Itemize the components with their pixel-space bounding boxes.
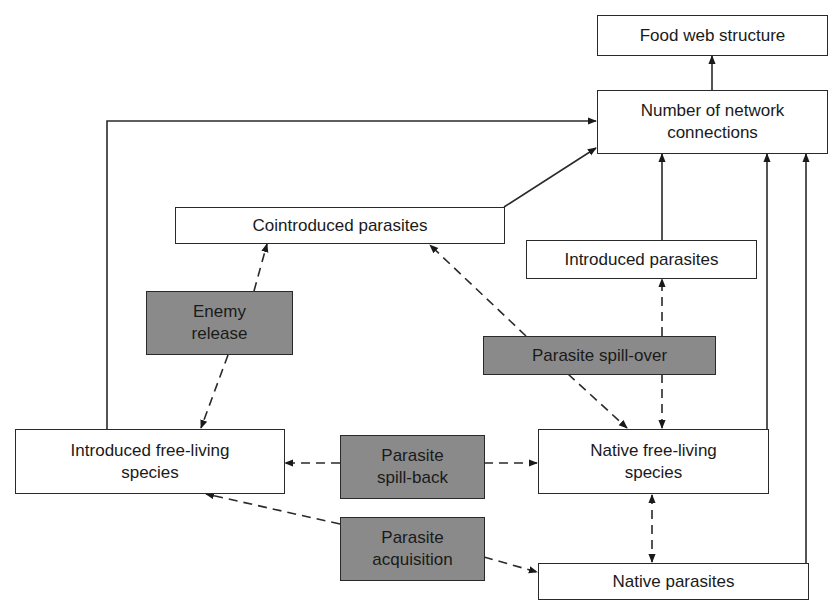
node-label-line1: Parasite [381,527,443,549]
node-label-line2: spill-back [377,467,448,489]
edge-introduced-free-living-to-network [107,121,596,429]
node-introduced-free-living-species: Introduced free-living species [15,429,285,494]
node-label-line2: species [625,462,683,484]
node-parasite-spill-over: Parasite spill-over [483,336,716,375]
node-label: Cointroduced parasites [253,215,428,237]
edge-enemy-release-to-cointroduced [254,244,267,291]
edge-enemy-release-to-introduced-free-living [201,355,228,428]
node-parasite-spill-back: Parasite spill-back [340,435,485,499]
node-native-parasites: Native parasites [538,563,809,600]
node-label-line2: species [121,462,179,484]
node-label-line1: Introduced free-living [71,440,230,462]
node-label-line1: Enemy [193,301,246,323]
node-label: Parasite spill-over [532,345,667,367]
node-label: Introduced parasites [564,249,718,271]
node-network-connections: Number of network connections [597,90,828,154]
node-label-line1: Number of network [641,100,785,122]
node-label: Native parasites [613,571,735,593]
node-label-line2: acquisition [372,549,452,571]
edge-acquisition-to-native-parasites [484,557,537,572]
edge-cointroduced-to-network [504,148,596,207]
edge-spill-over-to-cointroduced [430,245,526,336]
node-label-line2: release [192,323,248,345]
edge-spill-over-to-native-free-living [568,374,627,428]
node-label-line2: connections [667,122,758,144]
node-parasite-acquisition: Parasite acquisition [340,517,485,581]
node-introduced-parasites: Introduced parasites [526,240,757,279]
node-cointroduced-parasites: Cointroduced parasites [175,207,505,244]
node-enemy-release: Enemy release [146,291,293,355]
node-label: Food web structure [640,25,786,47]
node-native-free-living-species: Native free-living species [538,429,769,494]
node-label-line1: Parasite [381,445,443,467]
edge-acquisition-to-introduced-free-living [206,494,340,524]
node-food-web-structure: Food web structure [597,15,828,56]
node-label-line1: Native free-living [590,440,717,462]
